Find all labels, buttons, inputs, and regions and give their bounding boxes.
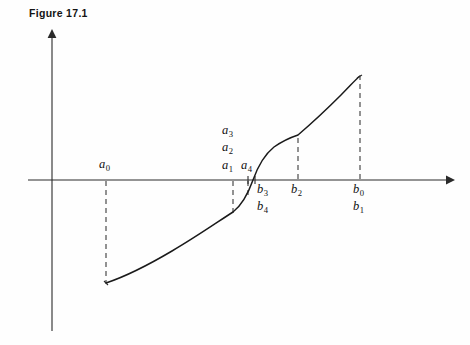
label-b0: b0 <box>353 183 364 196</box>
y-axis-arrowhead <box>48 29 57 38</box>
figure-container: Figure 17.1 a0 a3 a2 a1 a4 b3 b4 b2 b0 b… <box>0 0 470 345</box>
label-b2: b2 <box>291 183 302 196</box>
label-a2: a2 <box>222 141 233 154</box>
label-a3: a3 <box>222 124 233 137</box>
label-b4: b4 <box>257 200 268 213</box>
x-axis-arrowhead <box>446 176 455 185</box>
label-a4: a4 <box>241 159 252 172</box>
label-a0: a0 <box>99 158 110 171</box>
label-b3: b3 <box>257 183 268 196</box>
label-a1: a1 <box>222 159 233 172</box>
plot-area <box>0 0 470 345</box>
label-b1: b1 <box>353 200 364 213</box>
